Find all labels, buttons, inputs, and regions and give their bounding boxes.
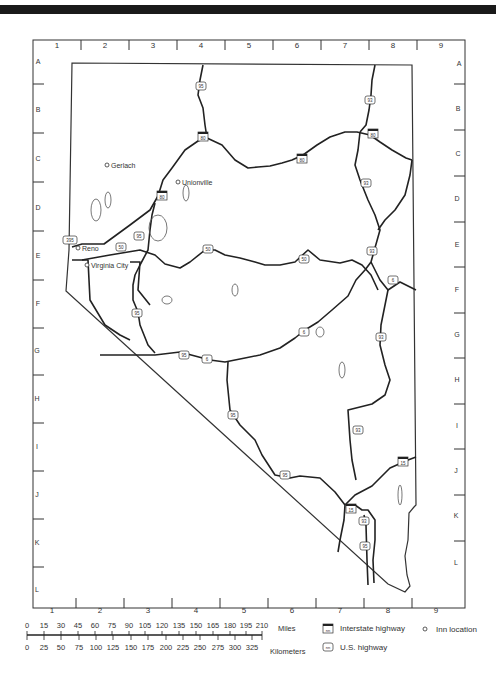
inn-marker-icon bbox=[105, 163, 109, 167]
top-column-labels: 1 2 3 4 5 6 7 8 9 bbox=[55, 41, 444, 50]
svg-text:5: 5 bbox=[247, 41, 252, 50]
svg-text:A: A bbox=[457, 60, 462, 67]
svg-text:8: 8 bbox=[391, 41, 396, 50]
svg-text:125: 125 bbox=[107, 643, 120, 652]
svg-text:15: 15 bbox=[400, 461, 406, 466]
svg-text:50: 50 bbox=[57, 643, 65, 652]
svg-text:45: 45 bbox=[74, 621, 82, 630]
us-6-shield-2: 6 bbox=[299, 328, 309, 336]
svg-text:3: 3 bbox=[146, 606, 151, 615]
svg-text:2: 2 bbox=[98, 606, 103, 615]
interstate-legend-label: Interstate highway bbox=[340, 624, 405, 633]
svg-text:B: B bbox=[36, 106, 41, 113]
svg-text:95: 95 bbox=[230, 413, 236, 418]
svg-text:C: C bbox=[35, 155, 40, 162]
svg-text:9: 9 bbox=[434, 606, 439, 615]
svg-text:D: D bbox=[454, 195, 459, 202]
svg-text:Reno: Reno bbox=[82, 245, 99, 252]
inn-marker-icon bbox=[176, 180, 180, 184]
inn-unionville[interactable]: Unionville bbox=[176, 179, 212, 186]
us-95-shield-3: 95 bbox=[179, 351, 189, 359]
svg-text:Unionville: Unionville bbox=[182, 179, 212, 186]
svg-text:120: 120 bbox=[156, 621, 169, 630]
svg-text:L: L bbox=[454, 559, 458, 566]
svg-text:150: 150 bbox=[125, 643, 138, 652]
svg-text:80: 80 bbox=[159, 195, 165, 200]
bottom-column-labels: 1 2 3 4 5 6 7 8 9 bbox=[50, 606, 439, 615]
svg-text:Gerlach: Gerlach bbox=[111, 162, 136, 169]
svg-text:G: G bbox=[34, 347, 39, 354]
svg-text:200: 200 bbox=[160, 643, 173, 652]
svg-text:93: 93 bbox=[369, 249, 375, 254]
svg-text:A: A bbox=[36, 58, 41, 65]
svg-text:E: E bbox=[36, 252, 41, 259]
svg-text:325: 325 bbox=[246, 643, 259, 652]
inn-virginia-city[interactable]: Virginia City bbox=[85, 262, 129, 270]
km-tick-labels: 0 25 50 75 100 125 150 175 200 225 250 2… bbox=[25, 643, 258, 652]
us-95-shield-north: 95 bbox=[196, 82, 206, 90]
svg-text:9: 9 bbox=[439, 41, 444, 50]
us-6-shield-3: 6 bbox=[388, 276, 398, 284]
us-highway-legend-label: U.S. highway bbox=[340, 643, 387, 652]
svg-text:L: L bbox=[35, 586, 39, 593]
us-highway-legend-icon: nn bbox=[323, 643, 333, 651]
svg-text:J: J bbox=[454, 467, 458, 474]
us-95-shield-2: 95 bbox=[132, 309, 142, 317]
svg-text:95: 95 bbox=[136, 234, 142, 239]
svg-text:93: 93 bbox=[378, 335, 384, 340]
left-row-labels: A B C D E F G H I J K L bbox=[34, 58, 40, 593]
svg-text:180: 180 bbox=[224, 621, 237, 630]
us-93-shield-2: 93 bbox=[361, 179, 371, 187]
svg-text:F: F bbox=[455, 286, 459, 293]
miles-label: Miles bbox=[278, 624, 296, 633]
svg-text:2: 2 bbox=[103, 41, 108, 50]
svg-text:B: B bbox=[456, 105, 461, 112]
us-95-shield-central: 95 bbox=[134, 232, 144, 240]
svg-text:225: 225 bbox=[177, 643, 190, 652]
svg-text:30: 30 bbox=[57, 621, 65, 630]
svg-text:nn: nn bbox=[326, 645, 330, 650]
svg-text:50: 50 bbox=[118, 245, 124, 250]
svg-text:95: 95 bbox=[134, 311, 140, 316]
us-6-shield-1: 6 bbox=[202, 355, 212, 363]
svg-text:15: 15 bbox=[40, 621, 48, 630]
us-95-shield-6: 95 bbox=[360, 542, 370, 550]
svg-text:6: 6 bbox=[295, 41, 300, 50]
svg-text:E: E bbox=[455, 241, 460, 248]
us-93-shield-6: 93 bbox=[359, 517, 369, 525]
svg-text:95: 95 bbox=[282, 473, 288, 478]
svg-text:90: 90 bbox=[125, 621, 133, 630]
svg-text:300: 300 bbox=[229, 643, 242, 652]
svg-text:95: 95 bbox=[181, 353, 187, 358]
us-50-shield-1: 50 bbox=[116, 243, 126, 251]
us-50-shield-3: 50 bbox=[299, 255, 309, 263]
svg-text:100: 100 bbox=[90, 643, 103, 652]
svg-text:93: 93 bbox=[367, 98, 373, 103]
svg-text:H: H bbox=[454, 376, 459, 383]
interstate-legend-icon: nn bbox=[323, 624, 333, 633]
us-93-shield-1: 93 bbox=[365, 96, 375, 104]
svg-text:G: G bbox=[454, 331, 459, 338]
us-93-shield-5: 93 bbox=[353, 426, 363, 434]
interstate-80-shield-2: 80 bbox=[297, 154, 307, 163]
interstate-15-shield-1: 15 bbox=[398, 457, 408, 466]
svg-text:I: I bbox=[36, 443, 38, 450]
interstate-80-shield-1: 80 bbox=[198, 132, 208, 141]
nevada-map: 1 2 3 4 5 6 7 8 9 1 2 3 4 5 6 7 8 9 A B … bbox=[0, 0, 496, 690]
inn-location-legend-label: Inn location bbox=[436, 625, 477, 634]
svg-text:195: 195 bbox=[240, 621, 253, 630]
svg-text:15: 15 bbox=[348, 508, 354, 513]
svg-text:50: 50 bbox=[205, 247, 211, 252]
svg-text:50: 50 bbox=[301, 257, 307, 262]
svg-text:H: H bbox=[34, 395, 39, 402]
svg-text:I: I bbox=[456, 422, 458, 429]
svg-text:75: 75 bbox=[75, 643, 83, 652]
svg-text:25: 25 bbox=[40, 643, 48, 652]
svg-text:80: 80 bbox=[200, 136, 206, 141]
svg-text:Virginia City: Virginia City bbox=[91, 262, 129, 270]
svg-text:175: 175 bbox=[142, 643, 155, 652]
svg-text:95: 95 bbox=[198, 84, 204, 89]
svg-text:nn: nn bbox=[326, 628, 330, 633]
us-50-shield-2: 50 bbox=[203, 245, 213, 253]
svg-text:93: 93 bbox=[355, 428, 361, 433]
